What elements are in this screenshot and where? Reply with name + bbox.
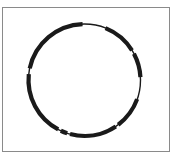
segment-e bbox=[70, 126, 116, 136]
segment-a bbox=[30, 24, 83, 68]
segment-f bbox=[61, 131, 67, 134]
segment-d bbox=[118, 99, 137, 125]
circular-map bbox=[0, 0, 182, 162]
feature-segments bbox=[29, 24, 141, 136]
segment-g bbox=[29, 74, 59, 129]
segment-b bbox=[105, 28, 132, 50]
segment-c bbox=[134, 54, 140, 77]
